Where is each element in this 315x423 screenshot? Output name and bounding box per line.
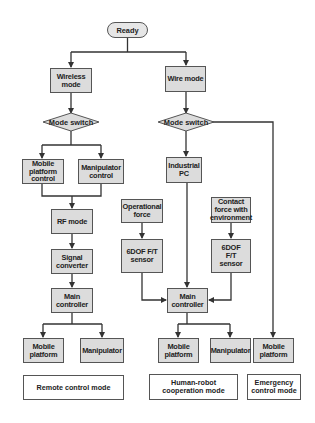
mobile-platform-left-box: Mobile platform	[23, 338, 64, 363]
remote-control-mode-caption: Remote control mode	[23, 375, 124, 400]
rf-mode-box: RF mode	[51, 209, 93, 234]
manipulator-control-box: Manipulator control	[78, 159, 124, 184]
industrial-pc-box: Industrial PC	[166, 157, 202, 183]
signal-converter-box: Signal converter	[51, 249, 93, 274]
dof-sensor-right-box: 6DOF F/T sensor	[211, 239, 251, 273]
dof-sensor-left-box: 6DOF F/T sensor	[121, 239, 163, 273]
mode-switch-label-right: Mode switch	[160, 118, 212, 127]
mobile-platform-control-box: Mobile platform control	[22, 159, 64, 184]
human-robot-cooperation-caption: Human-robot cooperation mode	[149, 374, 238, 400]
mobile-platform-emergency-box: Mobile platform	[253, 338, 294, 363]
wireless-mode-box: Wireless mode	[50, 68, 92, 93]
mobile-platform-center-box: Mobile platform	[158, 338, 199, 363]
manipulator-center-box: Manipulator	[210, 338, 251, 363]
main-controller-center-box: Main controller	[167, 288, 208, 313]
contact-force-box: Contact force with environment	[211, 197, 251, 223]
mode-switch-label-left: Mode switch	[45, 118, 97, 127]
ready-node: Ready	[107, 22, 148, 38]
wire-mode-box: Wire mode	[165, 66, 206, 92]
operational-force-box: Operational force	[121, 199, 163, 223]
main-controller-left-box: Main controller	[51, 288, 93, 313]
manipulator-left-box: Manipulator	[80, 338, 124, 363]
emergency-control-mode-caption: Emergency control mode	[247, 374, 301, 400]
